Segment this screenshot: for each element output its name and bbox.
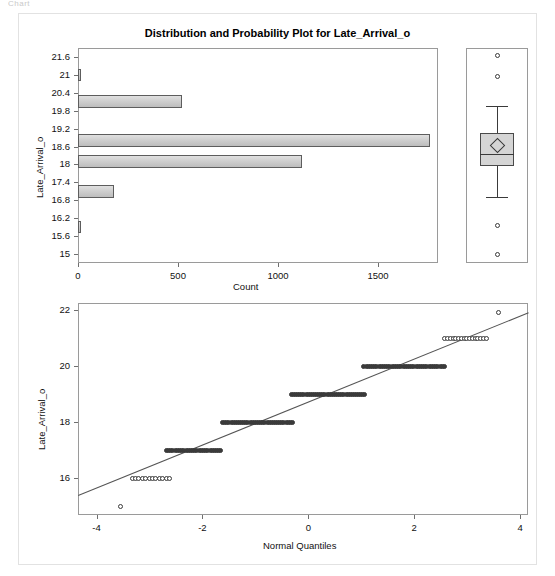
histogram-y-tick (74, 111, 78, 112)
histogram-y-tick-label: 16.8 (34, 194, 70, 205)
histogram-y-tick (74, 254, 78, 255)
qq-x-tick (414, 515, 415, 519)
qq-x-tick-label: -4 (77, 522, 117, 533)
boxplot-outlier (495, 252, 500, 257)
qq-y-tick-label: 18 (36, 416, 70, 427)
boxplot-upper-whisker (497, 106, 498, 133)
qq-data-point (484, 336, 489, 341)
histogram-y-tick-label: 19.8 (34, 105, 70, 116)
boxplot-outlier (495, 74, 500, 79)
boxplot-outlier (495, 53, 500, 58)
qq-y-tick (74, 422, 78, 423)
qq-y-tick (74, 478, 78, 479)
histogram-y-tick-label: 18 (34, 158, 70, 169)
qq-y-tick-label: 20 (36, 360, 70, 371)
chart-title: Distribution and Probability Plot for La… (18, 27, 537, 39)
boxplot-lower-cap (486, 197, 508, 198)
histogram-bar (78, 155, 302, 168)
histogram-bar (78, 221, 81, 234)
qq-x-tick-label: 2 (394, 522, 434, 533)
histogram-y-tick-label: 15.6 (34, 230, 70, 241)
histogram-x-tick (78, 263, 79, 267)
top-text-remnant: Chart (8, 0, 30, 7)
boxplot-outlier (495, 223, 500, 228)
histogram-x-tick-label: 1000 (253, 270, 303, 281)
histogram-bar (78, 134, 430, 147)
histogram-x-tick-label: 0 (53, 270, 103, 281)
probability-plot-panel: Late_Arrival_o Normal Quantiles 22201816… (18, 290, 537, 565)
boxplot-lower-whisker (497, 166, 498, 197)
histogram-x-tick-label: 1500 (353, 270, 403, 281)
histogram-y-tick (74, 218, 78, 219)
histogram-y-tick (74, 129, 78, 130)
qq-x-tick-label: 0 (288, 522, 328, 533)
qq-x-tick (520, 515, 521, 519)
qq-plot-area (78, 303, 528, 515)
histogram-y-tick (74, 93, 78, 94)
qq-data-point (118, 504, 123, 509)
histogram-bar (78, 69, 81, 82)
histogram-x-tick (278, 263, 279, 267)
histogram-y-tick (74, 200, 78, 201)
histogram-x-tick (178, 263, 179, 267)
screenshot-root: Chart Distribution and Probability Plot … (0, 0, 555, 576)
qq-data-point (290, 420, 295, 425)
qq-x-tick (202, 515, 203, 519)
histogram-y-tick-label: 20.4 (34, 87, 70, 98)
histogram-y-tick-label: 17.4 (34, 176, 70, 187)
qq-y-tick-label: 16 (36, 472, 70, 483)
histogram-y-tick-label: 16.2 (34, 212, 70, 223)
qq-y-tick (74, 310, 78, 311)
qq-y-tick (74, 366, 78, 367)
qq-x-tick-label: -2 (182, 522, 222, 533)
histogram-y-tick-label: 21 (34, 69, 70, 80)
histogram-y-tick-label: 18.6 (34, 141, 70, 152)
qq-x-tick (97, 515, 98, 519)
boxplot-upper-cap (486, 106, 508, 107)
boxplot-median-line (480, 154, 514, 155)
distribution-panel: Distribution and Probability Plot for La… (18, 13, 537, 290)
qq-data-point (442, 364, 447, 369)
histogram-y-tick (74, 57, 78, 58)
qq-x-tick-label: 4 (500, 522, 540, 533)
histogram-y-tick-label: 21.6 (34, 51, 70, 62)
qq-x-tick (308, 515, 309, 519)
histogram-bar (78, 95, 182, 108)
histogram-y-tick-label: 19.2 (34, 123, 70, 134)
histogram-x-tick (378, 263, 379, 267)
histogram-y-tick-label: 15 (34, 248, 70, 259)
qq-x-axis-title: Normal Quantiles (263, 540, 336, 551)
histogram-x-tick-label: 500 (153, 270, 203, 281)
qq-y-tick-label: 22 (36, 304, 70, 315)
histogram-bar (78, 185, 114, 198)
histogram-y-tick (74, 147, 78, 148)
histogram-y-tick (74, 182, 78, 183)
histogram-y-tick (74, 236, 78, 237)
